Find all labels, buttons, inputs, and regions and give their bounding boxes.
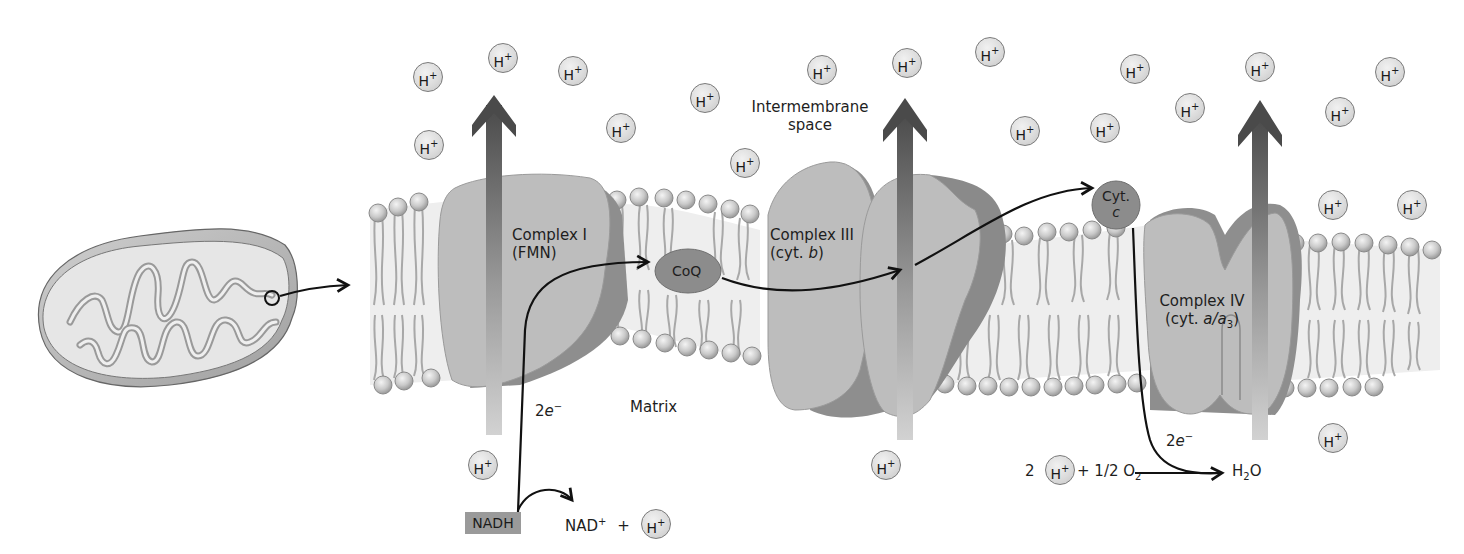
proton-ion: H+ <box>1175 93 1205 123</box>
complex-1-name: Complex I <box>512 226 587 244</box>
proton-ion: H+ <box>488 43 518 73</box>
proton-ion: H+ <box>1318 423 1348 453</box>
proton-ion: H+ <box>1245 52 1275 82</box>
proton-water-reactant: H+ <box>1045 455 1075 485</box>
proton-ion: H+ <box>606 113 636 143</box>
cytc-line-2: c <box>1100 204 1132 220</box>
electron-label-1: 2e− <box>535 398 562 420</box>
proton-ion: H+ <box>690 83 720 113</box>
intermembrane-space-label: Intermembrane space <box>740 98 880 134</box>
nadh-label: NADH <box>465 512 521 534</box>
proton-ion: H+ <box>1325 97 1355 127</box>
mitochondrion-icon <box>38 229 297 387</box>
complex-3-label: Complex III (cyt. b) <box>770 226 854 262</box>
etc-diagram: Intermembrane space Matrix Complex I (FM… <box>0 0 1464 554</box>
proton-ion: H+ <box>892 48 922 78</box>
nad-plus-label: NAD+ + <box>565 513 630 535</box>
proton-ion: H+ <box>730 148 760 178</box>
coq-label: CoQ <box>672 262 701 280</box>
proton-ion: H+ <box>1120 54 1150 84</box>
proton-ion: H+ <box>871 450 901 480</box>
proton-ion: H+ <box>413 62 443 92</box>
proton-ion: H+ <box>468 450 498 480</box>
intermembrane-line-2: space <box>740 116 880 134</box>
electron-label-2: 2e− <box>1166 428 1193 450</box>
proton-nadh-product: H+ <box>641 509 671 539</box>
cytc-label: Cyt. c <box>1100 188 1132 220</box>
complex-1-label: Complex I (FMN) <box>512 226 587 262</box>
oxygen-label: + 1/2 O2 <box>1077 462 1141 486</box>
proton-ion: H+ <box>414 130 444 160</box>
proton-ion: H+ <box>1318 190 1348 220</box>
complex-1-shape <box>438 174 628 388</box>
complex-4-name: Complex IV <box>1142 292 1262 310</box>
complex-4-label: Complex IV (cyt. a/a3) <box>1142 292 1262 334</box>
proton-ion: H+ <box>1397 190 1427 220</box>
proton-ion: H+ <box>1375 57 1405 87</box>
proton-ion: H+ <box>975 37 1005 67</box>
cytc-line-1: Cyt. <box>1100 188 1132 204</box>
matrix-label: Matrix <box>630 398 677 416</box>
water-label: H2O <box>1232 462 1261 486</box>
complex-3-name: Complex III <box>770 226 854 244</box>
proton-ion: H+ <box>1010 116 1040 146</box>
complex-4-cofactor: (cyt. a/a3) <box>1142 310 1262 334</box>
proton-ion: H+ <box>807 55 837 85</box>
proton-ion: H+ <box>558 56 588 86</box>
complex-1-cofactor: (FMN) <box>512 244 587 262</box>
proton-ion: H+ <box>1090 113 1120 143</box>
complex-3-cofactor: (cyt. b) <box>770 244 854 262</box>
intermembrane-line-1: Intermembrane <box>740 98 880 116</box>
water-reaction-coef: 2 <box>1025 462 1035 480</box>
